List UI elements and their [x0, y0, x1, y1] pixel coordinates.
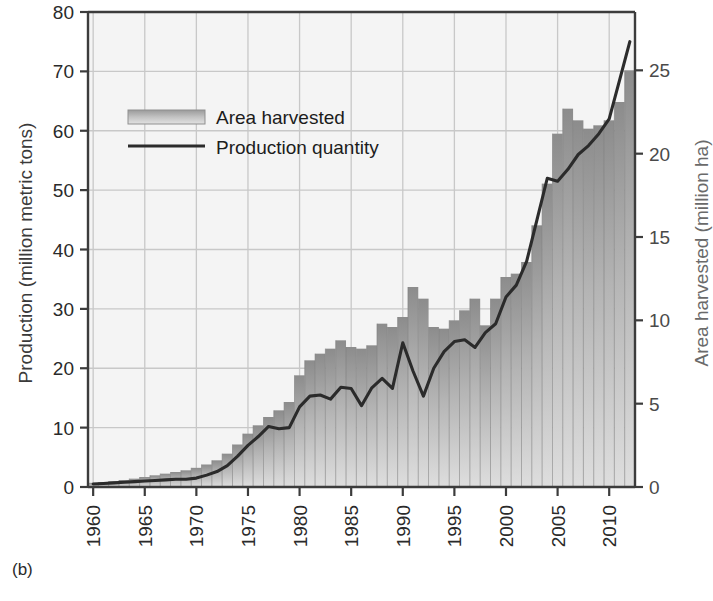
y2-tick-label: 0: [649, 477, 660, 498]
x-tick-label: 1960: [83, 505, 104, 547]
x-tick-label: 2005: [548, 505, 569, 547]
panel-label: (b): [12, 560, 33, 580]
y-tick-label: 40: [53, 240, 74, 261]
y2-tick-label: 25: [649, 60, 670, 81]
y-tick-label: 70: [53, 61, 74, 82]
x-axis-ticks: 1960196519701975198019851990199520002005…: [83, 487, 620, 547]
y-tick-label: 60: [53, 121, 74, 142]
y2-tick-label: 15: [649, 227, 670, 248]
x-tick-label: 1980: [290, 505, 311, 547]
x-tick-label: 1965: [135, 505, 156, 547]
x-tick-label: 1990: [393, 505, 414, 547]
x-tick-label: 1985: [341, 505, 362, 547]
y-tick-label: 20: [53, 358, 74, 379]
x-tick-label: 2000: [496, 505, 517, 547]
y-tick-label: 30: [53, 299, 74, 320]
y2-tick-label: 10: [649, 310, 670, 331]
y-tick-label: 80: [53, 2, 74, 23]
left-axis-title: Production (million metric tons): [15, 103, 37, 403]
y2-tick-label: 20: [649, 144, 670, 165]
right-axis-title: Area harvested (million ha): [691, 103, 713, 403]
right-axis-ticks: 0510152025: [635, 60, 670, 498]
y-tick-label: 0: [63, 477, 74, 498]
x-tick-label: 1975: [238, 505, 259, 547]
y2-tick-label: 5: [649, 394, 660, 415]
x-tick-label: 1970: [186, 505, 207, 547]
legend-label-area-harvested: Area harvested: [216, 107, 345, 128]
left-axis-ticks: 01020304050607080: [53, 2, 88, 498]
y-tick-label: 10: [53, 418, 74, 439]
legend-swatch-area-harvested: [128, 110, 205, 124]
y-tick-label: 50: [53, 180, 74, 201]
legend-label-production-quantity: Production quantity: [216, 137, 379, 158]
x-tick-label: 1995: [444, 505, 465, 547]
x-tick-label: 2010: [599, 505, 620, 547]
